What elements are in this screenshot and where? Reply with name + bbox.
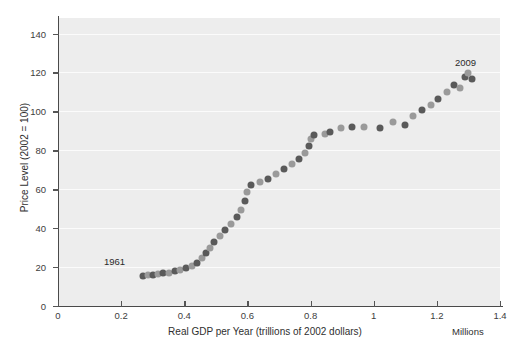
x-axis-tick-label: 0.6 — [227, 310, 267, 321]
data-point — [305, 143, 312, 150]
gridline — [58, 150, 500, 151]
data-point — [206, 245, 213, 252]
y-axis-tick-mark — [53, 34, 59, 35]
data-point — [360, 123, 367, 130]
data-point — [418, 107, 425, 114]
data-point — [295, 156, 302, 163]
data-point — [248, 182, 255, 189]
gridline — [58, 267, 500, 268]
price-level-vs-real-gdp-chart: 020406080100120140 00.20.40.60.811.21.4 … — [0, 0, 514, 349]
x-axis-tick-label: 0.8 — [291, 310, 331, 321]
x-axis-tick-mark — [500, 301, 501, 307]
x-axis-tick-mark — [58, 301, 59, 307]
data-point — [435, 95, 442, 102]
gridline — [58, 228, 500, 229]
x-axis-tick-mark — [437, 301, 438, 307]
x-axis-tick-label: 1.2 — [417, 310, 457, 321]
y-axis-tick-mark — [53, 150, 59, 151]
data-point — [348, 123, 355, 130]
x-axis-tick-label: 1 — [354, 310, 394, 321]
data-point — [211, 239, 218, 246]
x-axis-tick-mark — [184, 301, 185, 307]
data-point — [233, 214, 240, 221]
x-axis-tick-label: 1.4 — [480, 310, 514, 321]
gridline — [58, 111, 500, 112]
x-axis-tick-mark — [121, 301, 122, 307]
data-point — [264, 175, 271, 182]
data-point — [280, 165, 287, 172]
data-point — [228, 221, 235, 228]
data-point — [301, 150, 308, 157]
y-axis-tick-label: 140 — [16, 28, 46, 39]
data-point — [469, 76, 476, 83]
gridline — [58, 72, 500, 73]
y-axis-tick-mark — [53, 72, 59, 73]
data-point — [427, 101, 434, 108]
data-point — [244, 189, 251, 196]
x-axis-tick-label: 0 — [38, 310, 78, 321]
data-point — [443, 88, 450, 95]
data-point — [311, 131, 318, 138]
data-point — [216, 233, 223, 240]
y-axis-line — [58, 16, 59, 307]
annotation-2009: 2009 — [455, 57, 476, 68]
x-axis-tick-mark — [374, 301, 375, 307]
data-point — [288, 160, 295, 167]
data-point — [272, 170, 279, 177]
x-axis-tick-label: 0.4 — [164, 310, 204, 321]
data-point — [390, 119, 397, 126]
y-axis-tick-mark — [53, 228, 59, 229]
data-point — [401, 122, 408, 129]
annotation-1961: 1961 — [104, 256, 125, 267]
x-axis-tick-mark — [311, 301, 312, 307]
y-axis-tick-mark — [53, 189, 59, 190]
x-axis-tick-label: 0.2 — [101, 310, 141, 321]
data-point — [257, 179, 264, 186]
data-point — [410, 113, 417, 120]
y-axis-tick-mark — [53, 111, 59, 112]
data-point — [241, 197, 248, 204]
data-point — [456, 85, 463, 92]
data-point — [327, 128, 334, 135]
data-point — [377, 124, 384, 131]
data-point — [238, 206, 245, 213]
x-axis-title: Real GDP per Year (trillions of 2002 dol… — [120, 326, 410, 337]
x-axis-tick-mark — [247, 301, 248, 307]
y-axis-title: Price Level (2002 = 100) — [19, 58, 30, 258]
y-axis-tick-label: 20 — [16, 262, 46, 273]
gridline — [58, 34, 500, 35]
data-point — [337, 124, 344, 131]
data-point — [222, 227, 229, 234]
x-axis-units-label: Millions — [452, 326, 484, 337]
y-axis-tick-mark — [53, 267, 59, 268]
gridline — [58, 189, 500, 190]
